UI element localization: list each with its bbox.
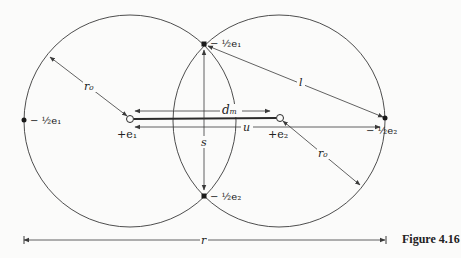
u-label: u (243, 121, 250, 134)
top-charge-label: − ½e₁ (210, 38, 241, 49)
r0-left-label: r₀ (84, 80, 94, 93)
bond-line (134, 118, 276, 119)
left-charge-dot (22, 118, 27, 123)
figure-caption: Figure 4.16 (402, 232, 460, 247)
dm-label: dₘ (222, 103, 237, 117)
r0-right-label: r₀ (318, 147, 328, 160)
left-nucleus (127, 116, 134, 123)
right-nucleus-label: +e₂ (268, 128, 288, 141)
top-charge-dot (202, 42, 207, 47)
molecule-diagram: dₘ u s r₀ r₀ l r − ½e₁ − ½e₁ − ½e₂ − ½e₂… (0, 0, 461, 258)
s-label: s (201, 136, 207, 149)
l-label: l (299, 76, 303, 89)
left-nucleus-label: +e₁ (117, 128, 137, 141)
r-label: r (201, 234, 207, 247)
right-charge-dot (383, 116, 388, 121)
left-charge-label: − ½e₁ (30, 115, 61, 126)
bottom-charge-dot (202, 194, 207, 199)
bottom-charge-label: − ½e₂ (210, 191, 241, 202)
right-charge-label: − ½e₂ (366, 125, 397, 136)
right-nucleus (277, 115, 284, 122)
